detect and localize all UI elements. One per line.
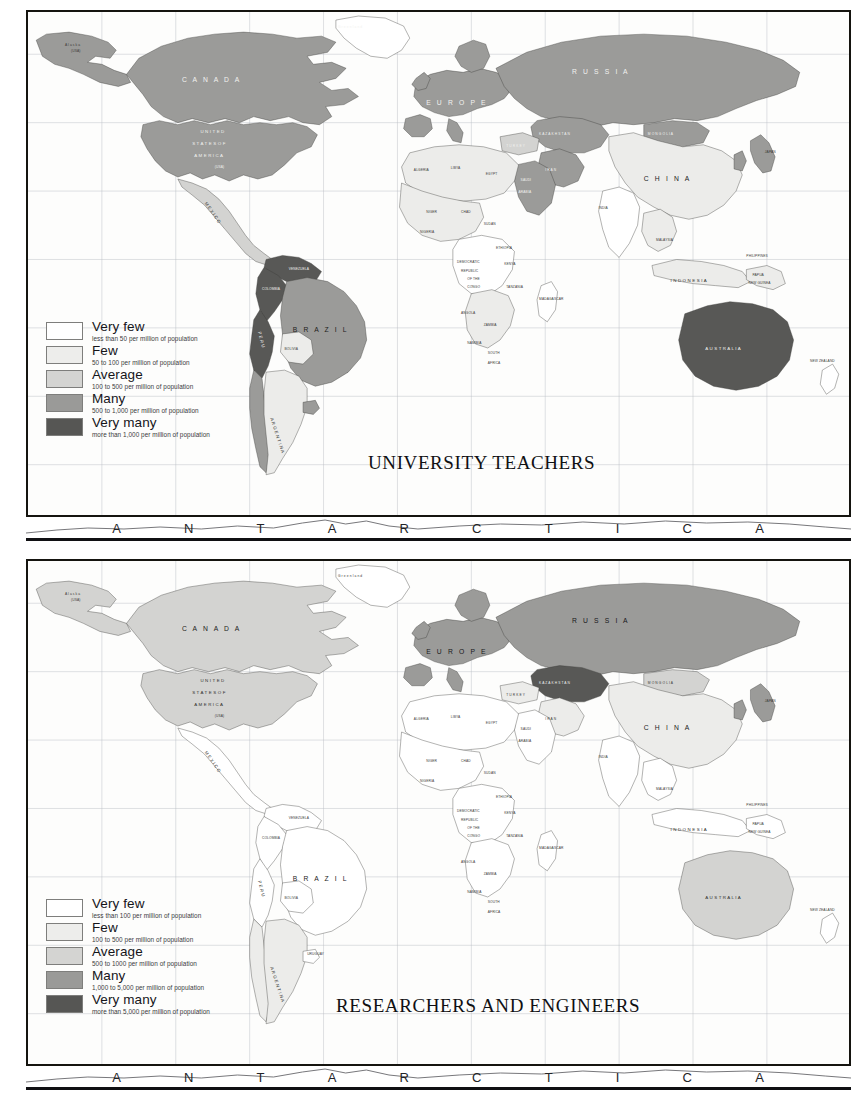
antarctica-letter: T [545,521,554,536]
legend-swatch-many [46,971,83,989]
svg-text:JAPAN: JAPAN [765,150,776,154]
svg-text:ETHIOPIA: ETHIOPIA [496,795,513,799]
svg-text:S T A T E S O F: S T A T E S O F [192,690,225,695]
svg-text:SAUDI: SAUDI [521,727,532,731]
antarctica-letter: R [400,1070,410,1085]
svg-text:SUDAN: SUDAN [484,222,497,226]
svg-text:S T A T E S O F: S T A T E S O F [192,141,225,146]
svg-text:MALAYSIA: MALAYSIA [656,238,674,242]
svg-text:LIBYA: LIBYA [451,166,461,170]
legend-row: Few 50 to 100 per million of population [46,344,261,367]
svg-text:K A Z A K H S T A N: K A Z A K H S T A N [539,132,570,136]
svg-text:A M E R I C A: A M E R I C A [194,153,223,158]
svg-text:PAPUA: PAPUA [753,822,765,826]
svg-text:CONGO: CONGO [467,834,480,838]
svg-text:ZAMBIA: ZAMBIA [484,872,498,876]
legend-desc: 100 to 500 per million of population [92,936,193,943]
svg-text:C A N A D A: C A N A D A [182,625,241,632]
panel-bottom-rule [26,1087,851,1090]
svg-text:ZAMBIA: ZAMBIA [484,323,498,327]
antarctica-letter: A [755,521,765,536]
svg-text:M O N G O L I A: M O N G O L I A [648,132,674,136]
svg-text:NIGER: NIGER [426,759,437,763]
svg-text:PHILIPPINES: PHILIPPINES [746,803,768,807]
legend-desc: more than 1,000 per million of populatio… [92,431,210,438]
svg-text:U N I T E D: U N I T E D [200,678,224,683]
svg-text:A l a s k a: A l a s k a [65,43,80,47]
antarctica-letter: T [257,1070,266,1085]
svg-text:NIGER: NIGER [426,210,437,214]
atlas-page: A l a s k a (USA) G r e e n l a n d C A … [0,0,865,1094]
svg-text:C H I N A: C H I N A [644,724,692,731]
svg-text:C H I N A: C H I N A [644,175,692,182]
svg-text:T U R K E Y: T U R K E Y [506,693,526,697]
antarctica-letter: A [755,1070,765,1085]
legend-label: Very many [92,416,210,429]
svg-text:EGYPT: EGYPT [486,721,498,725]
antarctica-letter: T [545,1070,554,1085]
svg-text:SOUTH: SOUTH [488,351,501,355]
legend-swatch-very-few [46,899,83,917]
svg-text:TANZANIA: TANZANIA [506,834,524,838]
svg-text:ARABIA: ARABIA [519,190,532,194]
svg-text:REPUBLIC: REPUBLIC [461,269,479,273]
legend-label: Many [92,969,204,982]
antarctica-letter: C [683,1070,693,1085]
legend-row: Very many more than 5,000 per million of… [46,993,261,1016]
svg-text:A M E R I C A: A M E R I C A [194,702,223,707]
svg-text:JAPAN: JAPAN [765,699,776,703]
antarctica-letter: A [328,521,338,536]
map-frame-1: A l a s k a (USA) G r e e n l a n d C A … [26,10,851,517]
antarctica-label: A N T A R C T I C A [26,521,851,536]
legend-label: Average [92,945,197,958]
svg-text:SAUDI: SAUDI [521,178,532,182]
svg-text:URUGUAY: URUGUAY [307,952,325,956]
antarctica-strip-1: A N T A R C T I C A [26,517,851,543]
svg-text:(USA): (USA) [71,49,80,53]
svg-text:OF THE: OF THE [467,826,480,830]
map-panel-university-teachers: A l a s k a (USA) G r e e n l a n d C A … [8,4,859,543]
svg-text:A l a s k a: A l a s k a [65,592,80,596]
svg-text:BOLIVIA: BOLIVIA [285,896,299,900]
svg-text:EGYPT: EGYPT [486,172,498,176]
legend-desc: 100 to 500 per million of population [92,383,193,390]
legend-researchers-and-engineers: Very few less than 100 per million of po… [46,897,261,1017]
svg-text:R U S S I A: R U S S I A [572,68,630,75]
legend-row: Many 1,000 to 5,000 per million of popul… [46,969,261,992]
svg-text:KENYA: KENYA [504,263,516,267]
legend-swatch-average [46,947,83,965]
svg-text:NEW GUINEA: NEW GUINEA [748,830,771,834]
legend-label: Very few [92,897,201,910]
svg-text:SUDAN: SUDAN [484,771,497,775]
svg-text:I R A N: I R A N [545,717,556,721]
antarctica-letter: T [257,521,266,536]
legend-desc: 50 to 100 per million of population [92,359,190,366]
legend-desc: less than 100 per million of population [92,912,201,919]
legend-swatch-few [46,923,83,941]
svg-text:G r e e n l a n d: G r e e n l a n d [338,25,362,29]
legend-row: Many 500 to 1,000 per million of populat… [46,392,261,415]
antarctica-letter: I [616,1070,621,1085]
legend-swatch-average [46,370,83,388]
legend-desc: 500 to 1000 per million of population [92,960,197,967]
svg-text:MADAGASCAR: MADAGASCAR [539,297,564,301]
svg-text:R U S S I A: R U S S I A [572,617,630,624]
svg-text:NIGERIA: NIGERIA [420,779,435,783]
svg-text:G r e e n l a n d: G r e e n l a n d [338,574,362,578]
svg-text:OF THE: OF THE [467,277,480,281]
svg-text:NEW ZEALAND: NEW ZEALAND [810,908,835,912]
svg-text:MADAGASCAR: MADAGASCAR [539,846,564,850]
svg-text:M O N G O L I A: M O N G O L I A [648,681,674,685]
svg-text:SOUTH: SOUTH [488,900,501,904]
legend-swatch-few [46,346,83,364]
legend-label: Average [92,368,193,381]
svg-text:DEMOCRATIC: DEMOCRATIC [457,810,480,814]
antarctica-strip-2: A N T A R C T I C A [26,1066,851,1092]
svg-text:ALGERIA: ALGERIA [414,168,430,172]
svg-text:LIBYA: LIBYA [451,715,461,719]
legend-label: Few [92,344,190,357]
svg-text:A U S T R A L I A: A U S T R A L I A [705,346,741,351]
svg-text:VENEZUELA: VENEZUELA [289,267,310,271]
svg-text:NEW GUINEA: NEW GUINEA [748,281,771,285]
svg-text:ALGERIA: ALGERIA [414,717,430,721]
